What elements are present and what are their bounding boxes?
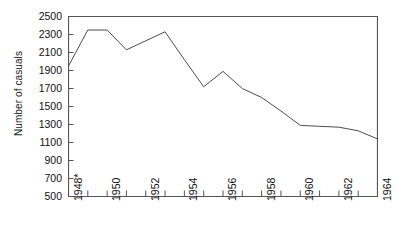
y-tick-label: 1500 bbox=[28, 101, 62, 112]
x-tick-label: 1950 bbox=[111, 178, 122, 201]
y-tick-label: 900 bbox=[28, 155, 62, 166]
plot-svg bbox=[68, 16, 378, 197]
x-tick-label: 1954 bbox=[188, 178, 199, 201]
y-tick-label: 1100 bbox=[28, 137, 62, 148]
y-tick-label: 2500 bbox=[28, 11, 62, 22]
x-tick-label: 1962 bbox=[343, 178, 354, 201]
x-tick-label: 1964 bbox=[382, 178, 393, 201]
y-axis-tick-labels: 5007009001100130015001700190021002300250… bbox=[24, 0, 62, 244]
x-tick-label: 1960 bbox=[304, 178, 315, 201]
line-chart: Number of casuals 5007009001100130015001… bbox=[0, 0, 406, 244]
data-series-line bbox=[69, 30, 378, 139]
x-tick-label: 1952 bbox=[150, 178, 161, 201]
y-axis-title: Number of casuals bbox=[13, 24, 24, 164]
y-tick-label: 2300 bbox=[28, 29, 62, 40]
y-tick-label: 1700 bbox=[28, 83, 62, 94]
y-tick-label: 2100 bbox=[28, 47, 62, 58]
y-tick-label: 500 bbox=[28, 191, 62, 202]
y-tick-label: 1300 bbox=[28, 119, 62, 130]
x-tick-label: 1948* bbox=[73, 174, 84, 201]
x-axis-tick-labels: 1948*19501952195419561958196019621964 bbox=[68, 197, 378, 244]
x-tick-label: 1958 bbox=[266, 178, 277, 201]
plot-area bbox=[68, 16, 378, 197]
y-tick-label: 700 bbox=[28, 173, 62, 184]
x-tick-label: 1956 bbox=[227, 178, 238, 201]
y-axis-ticks bbox=[69, 17, 74, 197]
y-tick-label: 1900 bbox=[28, 65, 62, 76]
